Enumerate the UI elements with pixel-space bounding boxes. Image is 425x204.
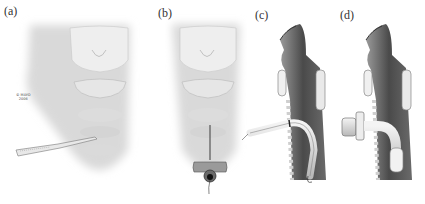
panel-label-b: (b) [158,6,172,21]
tube-flange [356,112,364,140]
thyroid-cartilage [70,26,128,72]
tube-connector [342,118,356,136]
panel-a [16,25,130,170]
tracheal-ring [82,144,118,156]
thyroid-cartilage [180,26,236,72]
tracheal-ring [80,126,120,138]
panel-label-c: (c) [255,8,268,23]
guidewire [242,134,248,140]
panel-c [242,24,326,182]
thyroid-cartilage-section [364,70,372,96]
tube-cuff [390,148,403,172]
illustration-canvas [0,0,425,204]
connector-lumen [207,174,213,180]
cricoid-section [402,70,411,110]
panel-d [342,24,412,180]
panel-label-a: (a) [4,4,17,19]
panel-b [172,24,240,194]
copyright-watermark: © MAYO 2006 [16,93,30,101]
depth-marker [289,120,290,127]
cricoid-section [316,70,325,110]
tracheal-ring [190,126,226,138]
tracheal-ring [78,108,122,122]
panel-label-d: (d) [340,8,354,23]
copyright-line-2: 2006 [16,97,30,101]
tracheal-ring [188,108,228,122]
thyroid-cartilage-section [278,70,286,96]
